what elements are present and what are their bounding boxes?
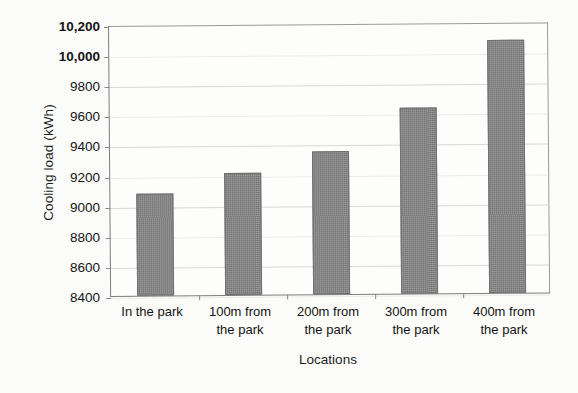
y-axis-tick-label: 9400 — [18, 139, 100, 154]
plot-area — [108, 23, 550, 297]
y-axis-tick-label: 10,000 — [18, 49, 100, 64]
gridline — [109, 54, 547, 58]
x-axis-tickmark — [287, 295, 288, 300]
y-axis-tickmark — [104, 27, 109, 28]
y-axis-tick-label: 8800 — [18, 229, 100, 244]
y-axis-tick-label: 9800 — [18, 79, 100, 94]
gridline — [109, 84, 547, 88]
bar — [136, 193, 174, 296]
gridline — [110, 114, 548, 118]
x-axis-tick-label: 100m fromthe park — [197, 303, 283, 339]
bar — [312, 151, 350, 294]
x-axis-title: Locations — [108, 352, 548, 367]
y-axis-tickmark — [104, 87, 109, 88]
x-axis-tickmark — [375, 294, 376, 299]
y-axis-tickmark — [106, 238, 111, 239]
y-axis-tickmark — [106, 268, 111, 269]
x-axis-tick-label: 200m fromthe park — [285, 303, 371, 339]
x-axis-tick-label: 300m fromthe park — [373, 303, 459, 339]
y-axis-tickmark — [106, 298, 111, 299]
x-axis-tick-label: 400m fromthe park — [461, 303, 547, 339]
x-axis-tick-label: In the park — [109, 303, 195, 321]
y-axis-tick-label: 8400 — [18, 290, 100, 305]
gridline — [110, 144, 548, 148]
y-axis-tick-label: 9000 — [18, 199, 100, 214]
bar — [487, 40, 526, 293]
bar — [224, 173, 262, 295]
x-axis-tick-label-group: In the park100m fromthe park200m fromthe… — [108, 303, 548, 351]
y-axis-tick-label-group: 10,20010,0009800960094009200900088008600… — [18, 26, 100, 297]
y-axis-tick-label: 9200 — [18, 169, 100, 184]
x-axis-tickmark — [463, 293, 464, 298]
y-axis-tick-label: 9600 — [18, 109, 100, 124]
y-axis-tickmark — [105, 117, 110, 118]
bar-chart-figure: Cooling load (kWh) 10,20010,000980096009… — [0, 0, 578, 393]
bar — [400, 107, 438, 293]
y-axis-tick-label: 8600 — [18, 259, 100, 274]
y-axis-tickmark — [105, 147, 110, 148]
y-axis-tickmark — [105, 208, 110, 209]
y-axis-tickmark — [105, 178, 110, 179]
gridline — [111, 295, 549, 299]
y-axis-tickmark — [104, 57, 109, 58]
x-axis-tickmark — [199, 295, 200, 300]
y-axis-tick-label: 10,200 — [18, 19, 100, 34]
